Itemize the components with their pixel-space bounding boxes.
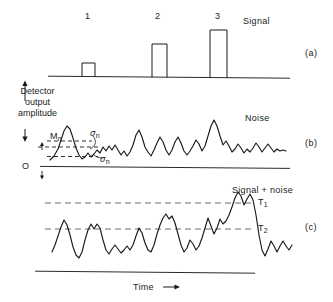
panel-c-title: Signal + noise (232, 185, 293, 196)
panel-a-baseline (48, 76, 290, 78)
time-axis-label: Time (133, 282, 154, 293)
threshold-2-subscript: 2 (264, 227, 268, 234)
signal-pulse-label-1: 1 (85, 11, 90, 22)
mean-noise-subscript: n (58, 135, 62, 142)
panel-c-signal-plus-noise (35, 192, 292, 273)
panel-b-noise (38, 120, 290, 180)
threshold-1-subscript: 1 (264, 201, 268, 208)
panel-tag-c: (c) (305, 222, 317, 233)
noise-waveform (50, 120, 286, 160)
sigma-noise-upper-label: σn (90, 128, 100, 141)
mean-noise-label: Mn (50, 131, 62, 144)
signal-plus-noise-waveform (52, 192, 292, 258)
threshold-2-label: T2 (258, 223, 268, 236)
signal-pulse-label-3: 3 (215, 11, 220, 22)
zero-indicator-arrowhead-down (40, 176, 44, 180)
threshold-1-label: T1 (258, 197, 268, 210)
signal-pulse-2 (152, 44, 167, 78)
time-axis-arrow (163, 285, 180, 290)
panel-tag-a: (a) (305, 48, 318, 59)
amplitude-axis-down-arrowhead (22, 137, 27, 143)
panel-c-baseline (35, 271, 255, 273)
time-arrow-head (175, 285, 181, 290)
panel-tag-b: (b) (305, 138, 318, 149)
figure-canvas (0, 0, 333, 302)
detector-output-figure: 1 2 3 Signal (a) (b) (c) Detector output… (0, 0, 333, 302)
amplitude-axis-label-line1: Detector (0, 86, 75, 96)
panel-a-signal (48, 30, 290, 78)
signal-pulse-3 (210, 30, 227, 78)
mean-indicator-arrowhead-up (40, 142, 44, 146)
amplitude-axis-label-line3: amplitude (0, 108, 75, 118)
sigma-lower-subscript: n (106, 158, 110, 165)
signal-pulse-label-2: 2 (155, 11, 160, 22)
signal-pulse-1 (82, 63, 95, 77)
amplitude-axis-label-line2: output (0, 97, 75, 107)
panel-b-zero-axis (40, 166, 290, 168)
panel-a-title: Signal (243, 16, 270, 27)
sigma-upper-subscript: n (96, 132, 100, 139)
sigma-noise-lower-label: σn (100, 154, 110, 167)
zero-level-label: O (22, 161, 29, 172)
mean-noise-symbol: M (50, 131, 58, 141)
panel-b-title: Noise (245, 113, 270, 124)
